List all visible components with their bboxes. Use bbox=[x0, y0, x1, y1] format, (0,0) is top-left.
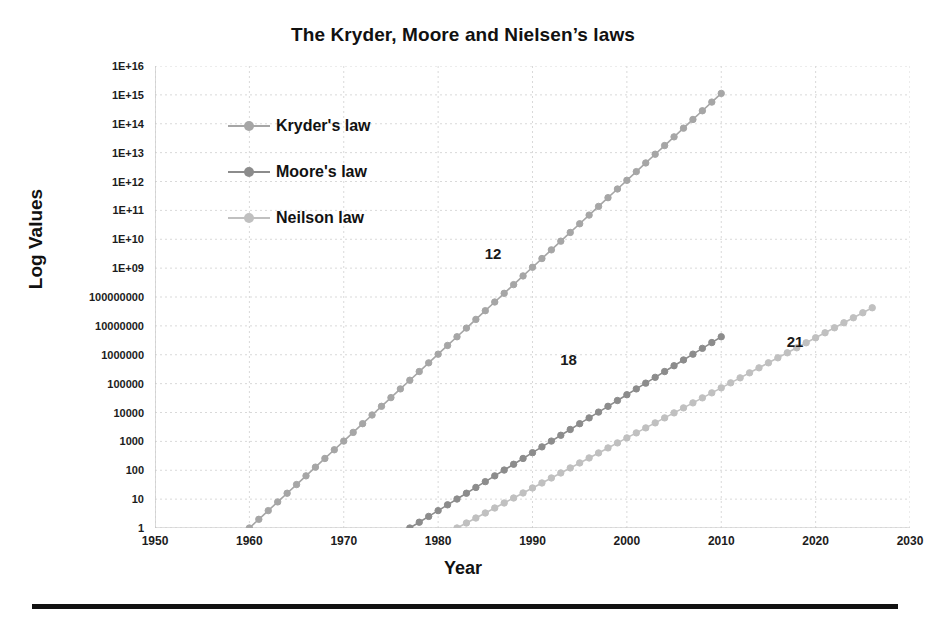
data-point-marker bbox=[539, 444, 545, 450]
data-point-marker bbox=[378, 403, 384, 409]
y-axis-tick-label: 1E+11 bbox=[0, 204, 150, 216]
data-point-marker bbox=[444, 342, 450, 348]
data-point-marker bbox=[369, 412, 375, 418]
y-axis-tick-label: 100 bbox=[0, 464, 150, 476]
y-axis-tick-label: 1E+15 bbox=[0, 89, 150, 101]
data-point-marker bbox=[454, 334, 460, 340]
data-point-marker bbox=[850, 315, 856, 321]
x-axis-tick-label: 2010 bbox=[691, 534, 751, 548]
data-point-marker bbox=[425, 513, 431, 519]
data-point-marker bbox=[709, 99, 715, 105]
data-point-marker bbox=[463, 520, 469, 526]
data-point-marker bbox=[812, 335, 818, 341]
x-axis-tick-label: 1960 bbox=[219, 534, 279, 548]
data-point-marker bbox=[718, 334, 724, 340]
data-point-marker bbox=[869, 305, 875, 311]
x-axis-tick-label: 2020 bbox=[786, 534, 846, 548]
y-axis-tick-label: 1 bbox=[0, 522, 150, 534]
data-point-marker bbox=[595, 203, 601, 209]
data-point-marker bbox=[529, 449, 535, 455]
data-point-marker bbox=[756, 365, 762, 371]
data-point-marker bbox=[586, 455, 592, 461]
data-point-marker bbox=[473, 484, 479, 490]
data-point-marker bbox=[520, 273, 526, 279]
data-point-marker bbox=[359, 420, 365, 426]
y-axis-tick-label: 10000000 bbox=[0, 320, 150, 332]
data-point-marker bbox=[727, 380, 733, 386]
data-point-marker bbox=[699, 345, 705, 351]
data-point-marker bbox=[492, 505, 498, 511]
legend-item[interactable]: Kryder's law bbox=[228, 103, 438, 149]
data-point-marker bbox=[284, 490, 290, 496]
data-point-marker bbox=[614, 397, 620, 403]
data-point-marker bbox=[246, 525, 252, 528]
data-point-marker bbox=[444, 502, 450, 508]
data-point-marker bbox=[699, 108, 705, 114]
data-point-marker bbox=[435, 507, 441, 513]
data-point-marker bbox=[463, 325, 469, 331]
data-point-marker bbox=[576, 221, 582, 227]
y-axis-tick-label: 100000000 bbox=[0, 291, 150, 303]
legend-swatch-icon bbox=[228, 119, 270, 133]
legend-swatch-icon bbox=[228, 165, 270, 179]
data-point-marker bbox=[661, 142, 667, 148]
data-point-marker bbox=[510, 281, 516, 287]
data-point-marker bbox=[567, 229, 573, 235]
data-point-marker bbox=[643, 380, 649, 386]
x-axis-title: Year bbox=[0, 558, 926, 579]
legend-label: Moore's law bbox=[270, 163, 367, 181]
data-point-marker bbox=[718, 90, 724, 96]
data-point-marker bbox=[303, 473, 309, 479]
data-point-marker bbox=[633, 168, 639, 174]
data-point-marker bbox=[416, 519, 422, 525]
data-point-marker bbox=[690, 351, 696, 357]
data-point-marker bbox=[529, 485, 535, 491]
data-point-marker bbox=[492, 473, 498, 479]
data-point-marker bbox=[784, 350, 790, 356]
legend-marker-icon bbox=[244, 213, 254, 223]
data-point-marker bbox=[803, 340, 809, 346]
data-point-marker bbox=[576, 460, 582, 466]
y-axis-tick-label: 1E+13 bbox=[0, 147, 150, 159]
bottom-divider-rule bbox=[32, 604, 898, 609]
legend-item[interactable]: Moore's law bbox=[228, 149, 438, 195]
data-point-marker bbox=[567, 465, 573, 471]
data-point-marker bbox=[548, 247, 554, 253]
data-point-marker bbox=[350, 429, 356, 435]
data-point-marker bbox=[586, 212, 592, 218]
data-point-marker bbox=[775, 355, 781, 361]
data-point-marker bbox=[548, 475, 554, 481]
data-point-marker bbox=[652, 374, 658, 380]
chart-title: The Kryder, Moore and Nielsen’s laws bbox=[0, 24, 926, 46]
data-point-marker bbox=[841, 320, 847, 326]
data-point-marker bbox=[473, 515, 479, 521]
data-point-marker bbox=[671, 134, 677, 140]
data-point-marker bbox=[510, 495, 516, 501]
data-point-marker bbox=[435, 351, 441, 357]
data-point-marker bbox=[709, 390, 715, 396]
data-point-marker bbox=[397, 386, 403, 392]
data-point-marker bbox=[671, 410, 677, 416]
y-axis-tick-label: 10000 bbox=[0, 407, 150, 419]
x-axis-tick-label: 1950 bbox=[125, 534, 185, 548]
x-axis-tick-label: 2030 bbox=[880, 534, 926, 548]
data-point-marker bbox=[690, 116, 696, 122]
data-point-marker bbox=[312, 464, 318, 470]
data-point-marker bbox=[680, 357, 686, 363]
data-point-marker bbox=[576, 420, 582, 426]
y-axis-tick-label: 1E+12 bbox=[0, 176, 150, 188]
data-point-marker bbox=[699, 395, 705, 401]
x-axis-tick-label: 1990 bbox=[503, 534, 563, 548]
data-point-marker bbox=[293, 481, 299, 487]
chart-legend: Kryder's lawMoore's lawNeilson law bbox=[228, 103, 438, 241]
data-point-marker bbox=[416, 368, 422, 374]
data-point-marker bbox=[407, 377, 413, 383]
data-point-marker bbox=[831, 325, 837, 331]
chart-figure: The Kryder, Moore and Nielsen’s laws Log… bbox=[0, 0, 926, 627]
legend-item[interactable]: Neilson law bbox=[228, 195, 438, 241]
data-point-marker bbox=[454, 525, 460, 528]
data-point-marker bbox=[501, 290, 507, 296]
data-point-marker bbox=[274, 499, 280, 505]
data-point-marker bbox=[322, 455, 328, 461]
data-point-marker bbox=[473, 316, 479, 322]
